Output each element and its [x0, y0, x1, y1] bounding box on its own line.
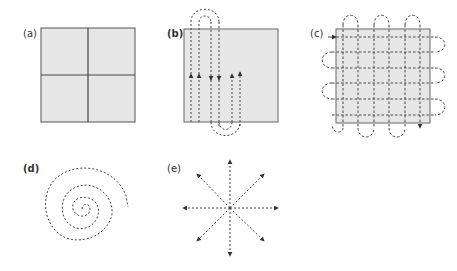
panel-c-raster [322, 15, 445, 137]
diagram-canvas [0, 0, 457, 271]
panel-e-star [183, 160, 278, 256]
panel-d-spiral [46, 168, 129, 240]
panel-b-serpentine [184, 9, 278, 135]
panel-a-quadrants [41, 28, 135, 122]
